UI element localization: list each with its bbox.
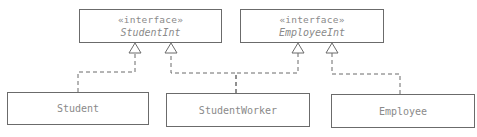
interface-box-studentint[interactable]: «interface» StudentInt <box>79 9 222 43</box>
class-name: Student <box>57 102 99 115</box>
realization-student-to-studentint <box>78 53 135 92</box>
stereotype-label: «interface» <box>279 14 344 26</box>
realization-employee-to-employeeint <box>332 53 400 94</box>
class-name: Employee <box>379 105 427 118</box>
stereotype-label: «interface» <box>118 14 183 26</box>
realization-studentworker-to-employeeint <box>236 53 298 93</box>
class-box-student[interactable]: Student <box>7 92 149 125</box>
realization-arrowhead-icon <box>326 43 338 53</box>
realization-arrowhead-icon <box>165 43 177 53</box>
interface-name: StudentInt <box>120 26 180 39</box>
realization-arrowhead-icon <box>129 43 141 53</box>
class-box-studentworker[interactable]: StudentWorker <box>166 93 310 127</box>
interface-name: EmployeeInt <box>279 26 345 39</box>
class-box-employee[interactable]: Employee <box>331 94 475 128</box>
interface-box-employeeint[interactable]: «interface» EmployeeInt <box>240 9 384 43</box>
realization-arrowhead-icon <box>292 43 304 53</box>
realization-studentworker-to-studentint <box>171 53 236 93</box>
class-name: StudentWorker <box>199 104 277 117</box>
